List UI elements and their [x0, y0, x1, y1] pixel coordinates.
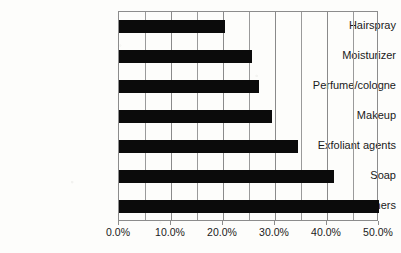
plot-area — [118, 11, 378, 221]
tick-mark-30 — [274, 221, 275, 225]
tick-mark-50 — [378, 221, 379, 225]
bar — [119, 140, 298, 153]
x-tick-label: 20.0% — [200, 226, 244, 238]
x-tick-label: 40.0% — [304, 226, 348, 238]
bar — [119, 80, 259, 93]
bar-row — [119, 102, 379, 132]
bar — [119, 20, 225, 33]
bar-row — [119, 192, 379, 222]
x-tick-label: 0.0% — [96, 226, 140, 238]
chart-page: HairsprayMoisturizerPerfume/cologneMakeu… — [0, 0, 401, 253]
bar-row — [119, 42, 379, 72]
x-tick-label: 50.0% — [356, 226, 400, 238]
bar — [119, 110, 272, 123]
bar-row — [119, 132, 379, 162]
bar — [119, 50, 252, 63]
bar — [119, 170, 334, 183]
bar — [119, 200, 379, 213]
tick-mark-10 — [170, 221, 171, 225]
tick-mark-0 — [118, 221, 119, 225]
bar-row — [119, 72, 379, 102]
x-tick-label: 30.0% — [252, 226, 296, 238]
bar-row — [119, 12, 379, 42]
tick-mark-40 — [326, 221, 327, 225]
x-tick-label: 10.0% — [148, 226, 192, 238]
tick-mark-20 — [222, 221, 223, 225]
bar-row — [119, 162, 379, 192]
